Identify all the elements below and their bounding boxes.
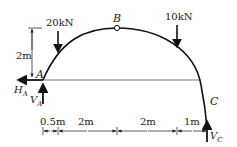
height-dim-label: 2m bbox=[16, 50, 32, 61]
span-dim-label-2: 2m bbox=[140, 116, 156, 127]
load-10kn-label: 10kN bbox=[165, 11, 193, 22]
arch-diagram: B 20kN 10kN 2m A HA VA C VC bbox=[0, 0, 237, 147]
span-dim-label-1: 2m bbox=[78, 116, 94, 127]
span-dim-label-3: 1m bbox=[184, 116, 200, 127]
label-c: C bbox=[210, 95, 219, 108]
reaction-vc-label: VC bbox=[210, 130, 223, 144]
reaction-ha-label: HA bbox=[13, 84, 28, 98]
label-a: A bbox=[35, 68, 44, 81]
span-dim-label-0: 0.5m bbox=[40, 116, 66, 127]
reaction-va-label: VA bbox=[30, 94, 42, 108]
load-20kn-label: 20kN bbox=[46, 17, 74, 28]
arch-curve bbox=[43, 28, 207, 128]
hinge-b bbox=[114, 25, 119, 30]
label-b: B bbox=[112, 12, 121, 25]
